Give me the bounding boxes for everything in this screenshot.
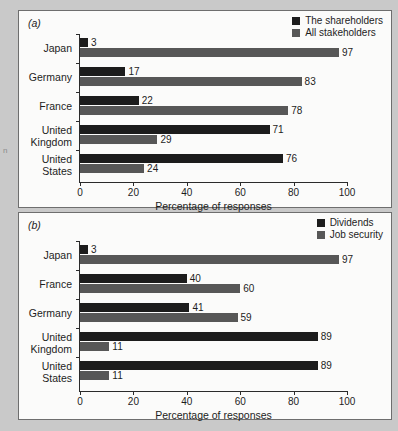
chart-panel-b: (b) DividendsJob security 020406080100Pe… <box>18 212 392 420</box>
x-axis-tick-label: 100 <box>339 396 356 407</box>
bar <box>80 371 109 380</box>
bar-value-label: 71 <box>273 124 284 135</box>
x-axis-line <box>79 391 348 392</box>
x-axis-tick-label: 0 <box>77 396 83 407</box>
x-axis-tick <box>187 183 188 186</box>
bar-value-label: 89 <box>321 360 332 371</box>
category-label: United States <box>19 154 72 177</box>
category-label: Germany <box>19 308 72 320</box>
x-axis-line <box>79 182 348 183</box>
category-label: France <box>19 279 72 291</box>
bar <box>80 77 302 86</box>
chart-panel-a: (a) The shareholdersAll stakeholders 020… <box>18 10 392 208</box>
x-axis-tick-label: 100 <box>339 187 356 198</box>
y-axis-tick <box>76 357 80 358</box>
bar-value-label: 11 <box>112 370 122 381</box>
plot-area-b: 020406080100Percentage of responsesJapan… <box>19 213 391 419</box>
bar-value-label: 3 <box>91 37 97 48</box>
y-axis-tick <box>76 150 80 151</box>
bar <box>80 38 88 47</box>
bar-value-label: 24 <box>147 163 158 174</box>
category-label: United Kingdom <box>19 125 72 148</box>
x-axis-tick <box>240 392 241 395</box>
bar-value-label: 97 <box>342 47 353 58</box>
bar-value-label: 17 <box>128 66 139 77</box>
x-axis-tick <box>347 183 348 186</box>
x-axis-tick <box>240 183 241 186</box>
bar <box>80 96 139 105</box>
bar-value-label: 76 <box>286 153 297 164</box>
bar <box>80 135 157 144</box>
bar <box>80 342 109 351</box>
bar <box>80 313 238 322</box>
x-axis-tick <box>294 392 295 395</box>
y-axis-tick <box>76 328 80 329</box>
bar <box>80 274 187 283</box>
bar <box>80 255 339 264</box>
x-axis-tick-label: 40 <box>181 396 192 407</box>
x-axis-tick-label: 20 <box>128 396 139 407</box>
x-axis-tick <box>187 392 188 395</box>
bar-value-label: 97 <box>342 254 353 265</box>
bar-value-label: 3 <box>91 244 97 255</box>
bar-value-label: 11 <box>112 341 122 352</box>
x-axis-tick-label: 40 <box>181 187 192 198</box>
y-axis-tick <box>76 121 80 122</box>
y-axis-tick <box>76 92 80 93</box>
margin-artifact-text: n <box>3 146 7 155</box>
x-axis-tick-label: 80 <box>288 187 299 198</box>
x-axis-title: Percentage of responses <box>155 200 272 212</box>
category-label: Germany <box>19 72 72 84</box>
bar <box>80 245 88 254</box>
bar-value-label: 41 <box>192 302 203 313</box>
y-axis-tick <box>76 299 80 300</box>
y-axis-tick <box>76 241 80 242</box>
x-axis-tick-label: 60 <box>235 396 246 407</box>
bar <box>80 164 144 173</box>
bar-value-label: 89 <box>321 331 332 342</box>
x-axis-tick <box>133 183 134 186</box>
x-axis-tick <box>80 392 81 395</box>
category-label: United States <box>19 361 72 384</box>
y-axis-tick <box>76 34 80 35</box>
figure-page: n (a) The shareholdersAll stakeholders 0… <box>0 0 398 431</box>
x-axis-tick <box>80 183 81 186</box>
y-axis-tick <box>76 63 80 64</box>
bar-value-label: 59 <box>241 312 252 323</box>
category-label: France <box>19 101 72 113</box>
bar-value-label: 40 <box>190 273 201 284</box>
y-axis-tick <box>76 270 80 271</box>
category-label: Japan <box>19 43 72 55</box>
x-axis-title: Percentage of responses <box>155 409 272 421</box>
bar <box>80 332 318 341</box>
plot-area-a: 020406080100Percentage of responsesJapan… <box>19 11 391 207</box>
bar <box>80 48 339 57</box>
x-axis-tick <box>133 392 134 395</box>
bar-value-label: 29 <box>160 134 171 145</box>
bar <box>80 361 318 370</box>
bar <box>80 125 270 134</box>
category-label: United Kingdom <box>19 332 72 355</box>
category-label: Japan <box>19 250 72 262</box>
bar <box>80 67 125 76</box>
bar-value-label: 60 <box>243 283 254 294</box>
bar-value-label: 78 <box>291 105 302 116</box>
bar <box>80 154 283 163</box>
bar <box>80 303 189 312</box>
x-axis-tick-label: 80 <box>288 396 299 407</box>
x-axis-tick <box>294 183 295 186</box>
x-axis-tick <box>347 392 348 395</box>
x-axis-tick-label: 20 <box>128 187 139 198</box>
x-axis-tick-label: 60 <box>235 187 246 198</box>
x-axis-tick-label: 0 <box>77 187 83 198</box>
bar-value-label: 83 <box>305 76 316 87</box>
bar <box>80 106 288 115</box>
bar <box>80 284 240 293</box>
bar-value-label: 22 <box>142 95 153 106</box>
